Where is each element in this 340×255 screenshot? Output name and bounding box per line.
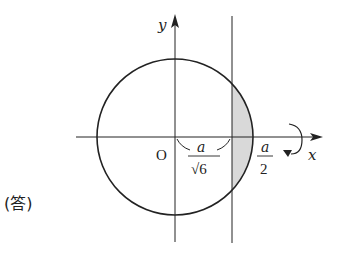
origin-label: O (156, 147, 167, 163)
inner-fraction-denominator: √6 (191, 161, 207, 177)
inner-fraction-numerator: a (197, 139, 205, 155)
diagram: y x O a √6 a 2 (0, 0, 340, 255)
answer-label: (答) (4, 190, 32, 214)
rotation-arrow-icon (289, 124, 302, 154)
x-axis-label: x (308, 146, 317, 164)
brace-left-icon (177, 139, 190, 150)
outer-fraction-denominator: 2 (260, 161, 268, 177)
brace-right-icon (217, 139, 230, 150)
rotation-arrowhead-icon (283, 150, 292, 157)
outer-fraction-numerator: a (261, 139, 269, 155)
y-axis-label: y (157, 16, 167, 34)
